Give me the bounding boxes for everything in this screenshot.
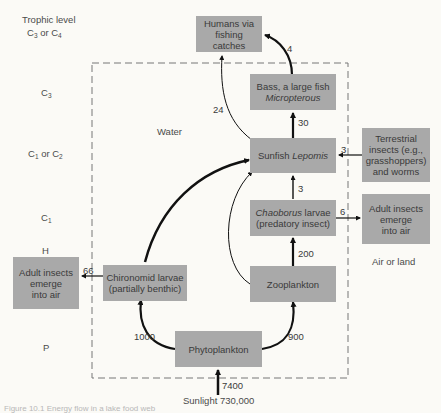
trophic-level-p: P [43, 342, 49, 353]
figure-caption: Figure 10.1 Energy flow in a lake food w… [4, 404, 155, 413]
flow-sunfish-to-bass: 30 [298, 117, 309, 128]
arrow-zoo-sunfish [228, 172, 252, 284]
node-zooplankton: Zooplankton [250, 266, 336, 302]
flow-phyto-to-zooplankton: 900 [288, 331, 304, 342]
flow-chaoborus-to-adult: 6 [340, 206, 345, 217]
node-chironomid: Chironomid larvae(partially benthic) [103, 265, 187, 301]
node-sunfish: Sunfish Lepomis [250, 138, 336, 173]
flow-chironomid-to-adult: 66 [83, 265, 94, 276]
node-terrestrial-insects: Terrestrialinsects (e.g.,grasshoppers)an… [362, 128, 430, 182]
node-adult-insects-right: Adult insectsemergeinto air [362, 194, 430, 244]
trophic-level-h: H [42, 245, 49, 256]
trophic-level-c3: C3 [41, 87, 52, 99]
trophic-level-header: Trophic level [22, 14, 76, 25]
trophic-level-c3-or-c4: C3 or C4 [27, 27, 62, 39]
region-label-air-or-land: Air or land [372, 256, 415, 267]
flow-terrestrial-to-sunfish: 3 [341, 144, 346, 155]
node-humans: Humans viafishing catches [196, 16, 262, 52]
node-bass: Bass, a large fishMicropterous [250, 74, 336, 110]
flow-chaoborus-to-sunfish: 3 [298, 183, 303, 194]
flow-sunfish-to-humans: 24 [213, 104, 224, 115]
trophic-level-c1: C1 [41, 212, 52, 224]
flow-sunlight-to-phyto: 7400 [222, 380, 243, 391]
food-web-diagram: Trophic level C3 or C4 C3 C1 or C2 C1 H … [0, 0, 441, 413]
node-adult-insects-left: Adult insectsemergeinto air [13, 257, 79, 309]
trophic-level-c1-or-c2: C1 or C2 [28, 148, 63, 160]
arrow-chironomid-sunfish [145, 160, 249, 262]
flow-phyto-to-chironomid: 1000 [134, 331, 155, 342]
flow-bass-to-humans: 4 [287, 43, 292, 54]
arrow-bass-humans [265, 35, 292, 75]
sunlight-label: Sunlight 730,000 [183, 395, 254, 406]
region-label-water: Water [157, 126, 182, 137]
node-phytoplankton: Phytoplankton [175, 331, 262, 367]
node-chaoborus: Chaoborus larvae(predatory insect) [250, 200, 336, 236]
flow-zooplankton-to-chaoborus: 200 [298, 248, 314, 259]
arrow-sunfish-humans [222, 56, 252, 140]
